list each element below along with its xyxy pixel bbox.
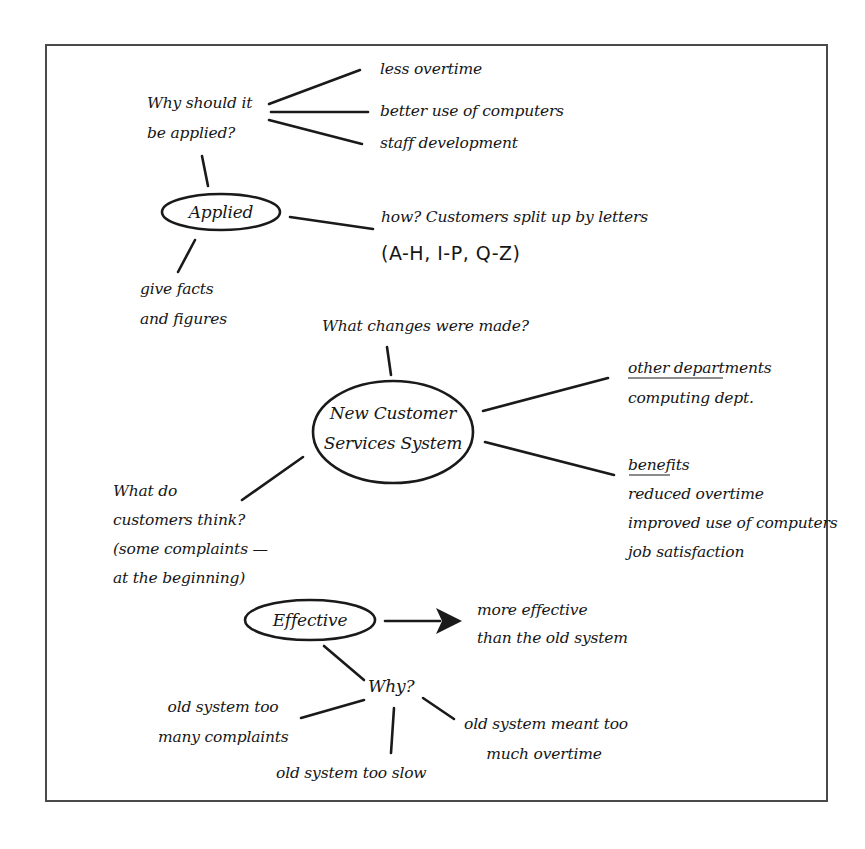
connector-effective-why	[324, 646, 364, 680]
benefit-item: reduced overtime	[628, 481, 838, 507]
connector-complaints	[301, 700, 364, 718]
other-departments-note: other departments computing dept.	[628, 355, 772, 411]
why-node-label: Why?	[368, 671, 414, 701]
reason-less-overtime: less overtime	[380, 56, 482, 82]
reason-staff-development: staff development	[380, 130, 518, 156]
complaints-note: old system too many complaints	[158, 694, 288, 750]
complaints-line2: many complaints	[158, 724, 288, 750]
more-effective-line1: more effective	[477, 597, 628, 623]
overtime-line2: much overtime	[464, 741, 624, 767]
benefit-item: job satisfaction	[628, 539, 838, 565]
connector-facts	[178, 240, 195, 272]
connector-changes	[387, 347, 391, 375]
slow-note: old system too slow	[276, 760, 426, 786]
customers-note: What do customers think? (some complaint…	[113, 478, 268, 591]
computing-dept: computing dept.	[628, 385, 772, 411]
customers-line: customers think?	[113, 507, 268, 533]
more-effective-note: more effective than the old system	[477, 597, 628, 651]
overtime-note: old system meant too much overtime	[464, 711, 624, 767]
applied-node-label: Applied	[162, 197, 280, 227]
facts-note: give facts and figures	[140, 276, 227, 332]
connector-less-overtime	[269, 70, 360, 104]
customers-line: (some complaints —	[113, 536, 268, 562]
reason-better-use: better use of computers	[380, 98, 564, 124]
complaints-line1: old system too	[158, 694, 288, 720]
connector-other-departments	[483, 378, 608, 411]
connector-why-applied	[202, 156, 208, 186]
connector-overtime	[423, 698, 454, 719]
customers-line: at the beginning)	[113, 565, 268, 591]
overtime-line1: old system meant too	[464, 711, 624, 737]
why-applied-line2: be applied?	[147, 120, 252, 146]
changes-note: What changes were made?	[322, 313, 529, 339]
mind-map-canvas: Why should it be applied? less overtime …	[0, 0, 865, 849]
how-note-line1: how? Customers split up by letters	[381, 204, 648, 230]
benefits-heading: benefits	[628, 452, 838, 478]
connector-slow	[391, 708, 394, 753]
more-effective-line2: than the old system	[477, 625, 628, 651]
why-applied-note: Why should it be applied?	[147, 90, 252, 146]
center-node-label: New Customer Services System	[313, 398, 473, 458]
how-note-line2: (A-H, I-P, Q-Z)	[381, 238, 520, 268]
customers-line: What do	[113, 478, 268, 504]
why-applied-line1: Why should it	[147, 90, 252, 116]
connector-how	[290, 217, 373, 229]
facts-line1: give facts	[140, 276, 227, 302]
facts-line2: and figures	[140, 306, 227, 332]
benefit-item: improved use of computers	[628, 510, 838, 536]
other-departments-heading: other departments	[628, 355, 772, 381]
connector-benefits	[485, 442, 614, 475]
effective-node-label: Effective	[245, 605, 375, 635]
center-node-line1: New Customer	[313, 398, 473, 428]
connector-staff-development	[269, 120, 362, 144]
center-node-line2: Services System	[313, 428, 473, 458]
benefits-note: benefits reduced overtime improved use o…	[628, 452, 838, 565]
